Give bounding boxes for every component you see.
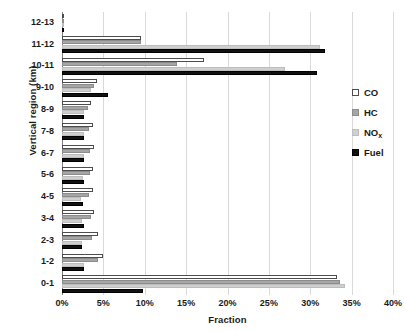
legend-item-co[interactable]: CO xyxy=(352,84,404,101)
bar-fuel-10-11 xyxy=(62,71,317,75)
y-tick-label: 6-7 xyxy=(41,148,54,158)
bar-hc-9-10 xyxy=(62,84,94,88)
legend-item-fuel[interactable]: Fuel xyxy=(352,144,404,161)
gridline xyxy=(145,12,146,295)
y-tick-label: 0-1 xyxy=(41,278,54,288)
bar-fuel-7-8 xyxy=(62,136,84,140)
bar-nox-7-8 xyxy=(62,132,84,136)
gridline xyxy=(186,12,187,295)
x-tick-label: 15% xyxy=(177,298,195,308)
bar-hc-2-3 xyxy=(62,236,92,240)
gridline xyxy=(103,12,104,295)
y-tick-label: 10-11 xyxy=(31,60,54,70)
bar-co-0-1 xyxy=(62,275,337,279)
bar-hc-0-1 xyxy=(62,280,340,284)
bar-hc-10-11 xyxy=(62,62,177,66)
bar-co-3-4 xyxy=(62,210,94,214)
bar-hc-11-12 xyxy=(62,40,141,44)
bar-co-9-10 xyxy=(62,79,97,83)
bar-fuel-12-13 xyxy=(62,28,64,32)
legend-label: HC xyxy=(364,107,378,118)
y-tick-label: 11-12 xyxy=(31,39,54,49)
gridline xyxy=(310,12,311,295)
bar-nox-5-6 xyxy=(62,176,83,180)
legend-label: Fuel xyxy=(364,147,384,158)
bar-nox-1-2 xyxy=(62,263,84,267)
bar-co-6-7 xyxy=(62,145,94,149)
plot-area xyxy=(62,12,393,295)
bar-nox-3-4 xyxy=(62,219,82,223)
bar-nox-9-10 xyxy=(62,88,91,92)
x-tick-label: 30% xyxy=(301,298,319,308)
bar-co-7-8 xyxy=(62,123,93,127)
bar-fuel-3-4 xyxy=(62,224,84,228)
legend-label: NOx xyxy=(364,127,382,138)
bar-hc-7-8 xyxy=(62,127,89,131)
bar-nox-4-5 xyxy=(62,197,81,201)
legend-label: CO xyxy=(364,87,378,98)
legend-swatch-icon xyxy=(352,149,359,156)
y-tick-label: 12-13 xyxy=(31,17,54,27)
bar-chart: Vertical region (km) 0-11-22-33-44-55-66… xyxy=(0,0,404,331)
legend-swatch-icon xyxy=(352,89,359,96)
x-axis-title: Fraction xyxy=(62,314,393,325)
bar-co-8-9 xyxy=(62,101,91,105)
bar-fuel-6-7 xyxy=(62,158,84,162)
legend-item-nox[interactable]: NOx xyxy=(352,124,404,141)
bar-co-2-3 xyxy=(62,232,98,236)
legend-swatch-icon xyxy=(352,129,359,136)
bar-co-4-5 xyxy=(62,188,93,192)
gridline xyxy=(228,12,229,295)
bar-nox-2-3 xyxy=(62,241,82,245)
bar-fuel-9-10 xyxy=(62,93,108,97)
bar-co-10-11 xyxy=(62,58,204,62)
x-tick-label: 25% xyxy=(260,298,278,308)
bar-co-11-12 xyxy=(62,36,141,40)
x-tick-label: 5% xyxy=(97,298,110,308)
y-tick-label: 5-6 xyxy=(41,169,54,179)
legend-swatch-icon xyxy=(352,109,359,116)
y-tick-label: 3-4 xyxy=(41,213,54,223)
bar-co-1-2 xyxy=(62,254,103,258)
bar-fuel-1-2 xyxy=(62,267,84,271)
y-tick-label: 1-2 xyxy=(41,256,54,266)
x-tick-label: 10% xyxy=(136,298,154,308)
legend-item-hc[interactable]: HC xyxy=(352,104,404,121)
bar-fuel-8-9 xyxy=(62,115,84,119)
bar-nox-12-13 xyxy=(62,23,64,27)
bar-nox-0-1 xyxy=(62,284,345,288)
bar-fuel-2-3 xyxy=(62,245,82,249)
y-tick-label: 4-5 xyxy=(41,191,54,201)
y-tick-label: 8-9 xyxy=(41,104,54,114)
bar-hc-3-4 xyxy=(62,215,91,219)
y-tick-label: 7-8 xyxy=(41,126,54,136)
bar-fuel-5-6 xyxy=(62,180,84,184)
bar-hc-6-7 xyxy=(62,149,90,153)
bar-hc-5-6 xyxy=(62,171,90,175)
bar-nox-6-7 xyxy=(62,154,84,158)
bar-nox-10-11 xyxy=(62,67,285,71)
bar-fuel-11-12 xyxy=(62,49,325,53)
legend: COHCNOxFuel xyxy=(352,84,404,164)
bar-hc-1-2 xyxy=(62,258,98,262)
bar-nox-8-9 xyxy=(62,110,84,114)
x-tick-label: 0% xyxy=(55,298,68,308)
bar-co-12-13 xyxy=(62,14,64,18)
x-axis-tick-labels: 0%5%10%15%20%25%30%35%40% xyxy=(62,298,393,312)
bar-nox-11-12 xyxy=(62,45,320,49)
bar-hc-4-5 xyxy=(62,193,89,197)
x-tick-label: 40% xyxy=(384,298,402,308)
y-tick-label: 2-3 xyxy=(41,235,54,245)
bar-hc-8-9 xyxy=(62,106,88,110)
y-tick-label: 9-10 xyxy=(36,82,54,92)
bar-fuel-4-5 xyxy=(62,202,83,206)
gridline xyxy=(269,12,270,295)
bar-hc-12-13 xyxy=(62,19,64,23)
bar-fuel-0-1 xyxy=(62,289,143,293)
x-tick-label: 20% xyxy=(218,298,236,308)
x-tick-label: 35% xyxy=(343,298,361,308)
y-axis-tick-labels: 0-11-22-33-44-55-66-77-88-99-1010-1111-1… xyxy=(0,12,58,295)
bar-co-5-6 xyxy=(62,167,93,171)
